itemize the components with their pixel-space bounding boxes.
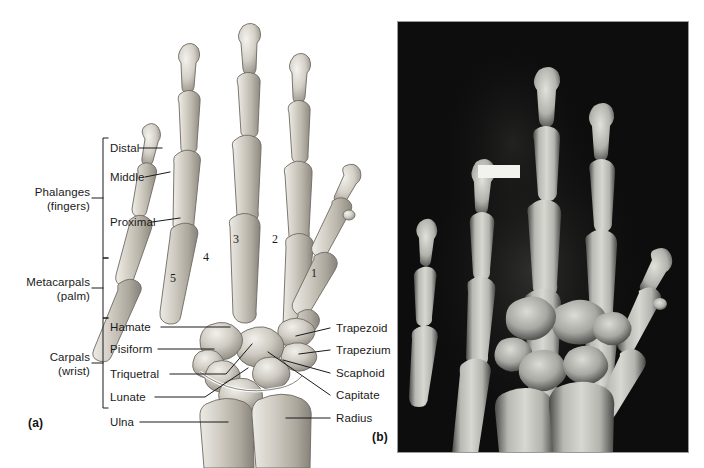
label-middle: Middle [110,171,144,184]
xray-image [398,22,688,452]
metacarpal-number-3: 3 [233,232,239,247]
group-label-metacarpals-line1: Metacarpals [26,276,90,288]
hand-bones-figure: Phalanges (fingers) Metacarpals (palm) C… [0,0,704,468]
label-hamate: Hamate [110,321,151,334]
label-proximal: Proximal [110,216,156,229]
xray-bones [398,22,688,452]
label-distal: Distal [110,142,139,155]
metacarpal-number-1: 1 [311,266,317,281]
label-trapezium: Trapezium [336,344,391,357]
metacarpal-number-2: 2 [272,232,278,247]
bracket-metacarpals [103,258,108,318]
group-label-carpals-line2: (wrist) [58,365,90,377]
bone-radius [252,394,311,468]
group-label-carpals: Carpals (wrist) [16,351,90,378]
bone-scaphoid [252,357,289,389]
label-radius: Radius [336,412,372,425]
panel-letter-a: (a) [28,416,43,430]
metacarpal-number-4: 4 [203,250,209,265]
group-label-metacarpals-line2: (palm) [57,290,90,302]
panel-b-radiograph: (b) [398,0,704,468]
bracket-phalanges [103,138,108,258]
group-label-metacarpals: Metacarpals (palm) [2,276,90,303]
label-ulna: Ulna [110,416,134,429]
label-lunate: Lunate [110,391,146,404]
group-label-phalanges-line2: (fingers) [47,200,90,212]
label-trapezoid: Trapezoid [336,322,388,335]
forearm-bones [200,394,311,468]
panel-letter-b: (b) [372,430,388,444]
xray-forearm [495,382,614,452]
metacarpal-number-5: 5 [170,271,176,286]
digit-3 [229,23,261,323]
digit-4 [160,43,201,324]
xray-marker-bar [478,165,520,178]
group-label-carpals-line1: Carpals [50,351,90,363]
label-pisiform: Pisiform [110,343,152,356]
panel-a-illustration: Phalanges (fingers) Metacarpals (palm) C… [0,0,398,468]
bone-ulna [200,398,254,468]
group-label-phalanges: Phalanges (fingers) [8,186,90,213]
label-triquetral: Triquetral [110,368,159,381]
group-label-phalanges-line1: Phalanges [35,186,90,198]
label-scaphoid: Scaphoid [336,367,385,380]
label-capitate: Capitate [336,389,380,402]
